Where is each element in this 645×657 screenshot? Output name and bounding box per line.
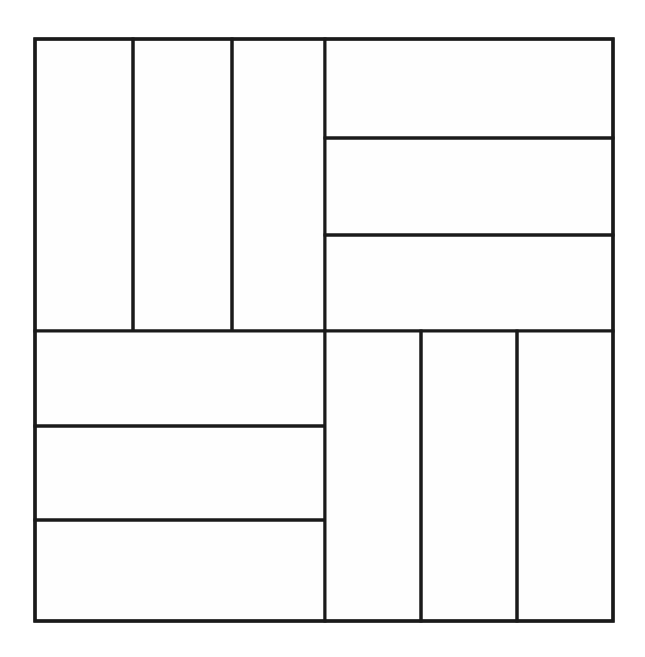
cell-bottom-left-2[interactable] — [35, 426, 325, 520]
cell-bottom-right-1[interactable] — [325, 331, 421, 621]
cell-bottom-right-3[interactable] — [517, 331, 613, 621]
cell-top-right-1[interactable] — [325, 39, 613, 138]
cell-bottom-right-2[interactable] — [421, 331, 517, 621]
cell-top-right-2[interactable] — [325, 138, 613, 235]
cell-bottom-left-1[interactable] — [35, 331, 325, 426]
cell-top-left-1[interactable] — [35, 39, 133, 331]
cell-top-right-3[interactable] — [325, 235, 613, 331]
diagram-canvas — [0, 0, 645, 657]
quadrant-bottom-right — [325, 331, 613, 621]
cell-top-left-3[interactable] — [232, 39, 325, 331]
cell-top-left-2[interactable] — [133, 39, 232, 331]
quadrant-top-left — [35, 39, 325, 331]
quadrant-top-right — [325, 39, 613, 331]
rectangle-dissection-svg — [0, 0, 645, 657]
quadrant-bottom-left — [35, 331, 325, 621]
cell-bottom-left-3[interactable] — [35, 520, 325, 621]
